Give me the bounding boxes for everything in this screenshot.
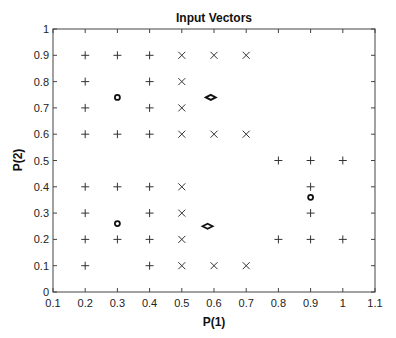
scatter-chart: Input Vectors 0.10.20.30.40.50.60.70.80.…: [0, 0, 396, 338]
x-tick-label: 0.1: [45, 297, 60, 309]
y-tick-label: 1: [43, 23, 49, 35]
y-axis-tick-labels: 00.10.20.30.40.50.60.70.80.91: [34, 23, 49, 298]
chart-title: Input Vectors: [176, 11, 252, 25]
x-tick-label: 1.1: [367, 297, 382, 309]
x-tick-label: 0.3: [110, 297, 125, 309]
y-tick-label: 0.4: [34, 181, 49, 193]
y-tick-label: 0.5: [34, 155, 49, 167]
y-tick-label: 0.2: [34, 233, 49, 245]
y-axis-label: P(2): [11, 149, 25, 172]
x-tick-label: 0.5: [174, 297, 189, 309]
x-tick-label: 1: [340, 297, 346, 309]
y-tick-label: 0.9: [34, 49, 49, 61]
y-tick-label: 0.7: [34, 102, 49, 114]
x-axis-label: P(1): [203, 315, 226, 329]
x-tick-label: 0.4: [142, 297, 157, 309]
x-axis-tick-labels: 0.10.20.30.40.50.60.70.80.911.1: [45, 297, 382, 309]
plot-area: [53, 29, 375, 292]
x-tick-label: 0.7: [239, 297, 254, 309]
x-tick-label: 0.2: [78, 297, 93, 309]
y-tick-label: 0: [43, 286, 49, 298]
x-tick-label: 0.6: [206, 297, 221, 309]
y-tick-label: 0.3: [34, 207, 49, 219]
y-tick-label: 0.1: [34, 260, 49, 272]
x-tick-label: 0.8: [271, 297, 286, 309]
x-tick-label: 0.9: [303, 297, 318, 309]
y-tick-label: 0.8: [34, 76, 49, 88]
y-tick-label: 0.6: [34, 128, 49, 140]
